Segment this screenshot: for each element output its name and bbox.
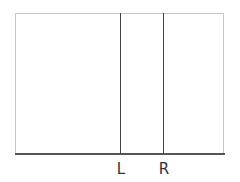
marker-line-l [120, 13, 121, 154]
marker-label-r: R [159, 161, 169, 177]
marker-label-l: L [117, 161, 125, 177]
marker-line-r [163, 13, 164, 154]
